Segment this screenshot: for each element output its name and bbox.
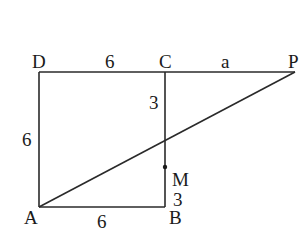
label-length-cp: a xyxy=(221,51,230,72)
label-length-cm: 3 xyxy=(149,92,159,113)
label-length-da: 6 xyxy=(22,129,32,150)
label-length-dc: 6 xyxy=(105,51,115,72)
geometry-diagram: D C P A B M 6 a 6 6 3 3 xyxy=(0,0,308,244)
segment-ap xyxy=(39,72,295,207)
label-point-a: A xyxy=(24,207,38,228)
label-length-ab: 6 xyxy=(97,211,107,232)
label-point-p: P xyxy=(288,51,299,72)
label-point-c: C xyxy=(159,51,172,72)
label-length-mb: 3 xyxy=(173,189,183,210)
label-point-m: M xyxy=(172,169,189,190)
label-point-d: D xyxy=(32,51,46,72)
label-point-b: B xyxy=(169,207,182,228)
point-m-dot xyxy=(163,165,167,169)
